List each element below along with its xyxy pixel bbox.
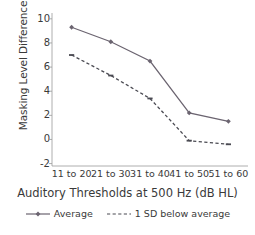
chart-legend: Average1 SD below average [0, 208, 255, 219]
chart-svg [52, 14, 248, 166]
series-line-1 [72, 55, 229, 144]
y-tick-label: 10 [37, 14, 50, 24]
data-point-marker [69, 25, 74, 30]
x-tick-label: 21 to 30 [91, 168, 131, 179]
data-point-marker [108, 75, 113, 77]
series-line-0 [72, 27, 229, 121]
legend-label: 1 SD below average [135, 208, 230, 219]
data-point-marker [108, 39, 113, 44]
legend-swatch-solid-line-icon [25, 209, 51, 219]
plot-area [52, 14, 248, 166]
y-tick-label: -2 [40, 159, 50, 169]
chart-figure: Masking Level Difference (dB) 1086420-2 … [0, 0, 255, 235]
legend-label: Average [54, 208, 93, 219]
data-point-marker [226, 143, 231, 145]
legend-entry-1[interactable]: 1 SD below average [106, 208, 230, 219]
x-tick-label: 31 to 40 [130, 168, 170, 179]
data-point-marker [226, 119, 231, 124]
x-axis-tick-labels: 11 to 2021 to 3031 to 4041 to 5051 to 60 [52, 168, 248, 182]
data-point-marker [147, 98, 152, 100]
legend-entry-0[interactable]: Average [25, 208, 93, 219]
data-point-marker [187, 140, 192, 142]
data-point-marker [69, 54, 74, 56]
x-tick-label: 41 to 50 [169, 168, 209, 179]
x-tick-label: 51 to 60 [209, 168, 249, 179]
x-axis-title: Auditory Thresholds at 500 Hz (dB HL) [0, 186, 255, 200]
x-tick-label: 11 to 20 [52, 168, 92, 179]
legend-swatch-dashed-line-icon [106, 209, 132, 219]
